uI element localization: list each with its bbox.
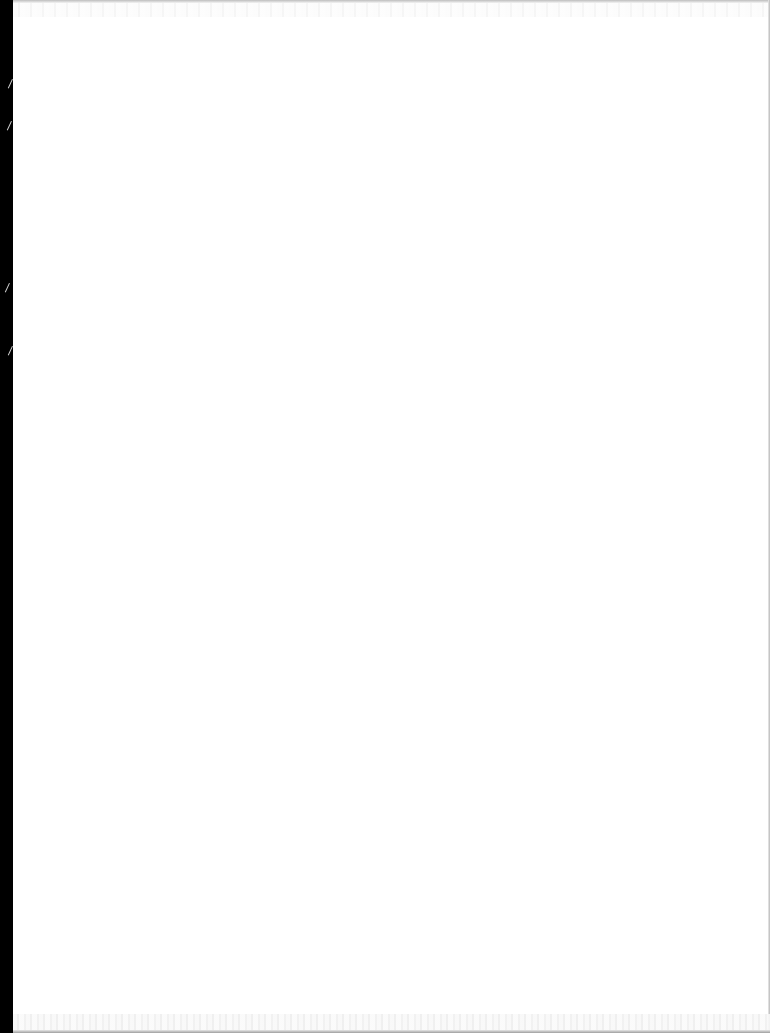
scanner-black-edge: [0, 0, 13, 1033]
scan-artifact: [5, 345, 13, 356]
blank-page: [13, 0, 770, 1033]
scan-artifact: [5, 78, 13, 89]
scan-artifact: [4, 120, 12, 131]
scanned-document: [0, 0, 770, 1033]
scan-artifact: [2, 282, 10, 293]
bleed-through-texture-bottom: [13, 1014, 770, 1030]
bleed-through-texture-top: [13, 3, 770, 17]
